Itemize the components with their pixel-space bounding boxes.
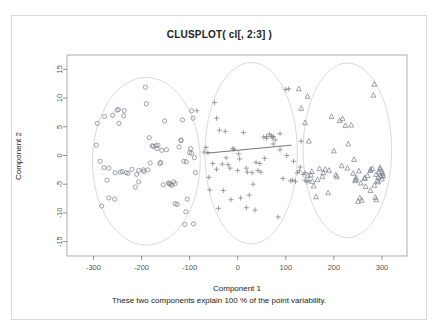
point-cluster-3 — [326, 190, 331, 195]
point-cluster-1 — [147, 136, 151, 140]
point-cluster-1 — [160, 148, 164, 152]
point-cluster-2 — [252, 207, 257, 212]
point-cluster-2 — [283, 87, 288, 92]
point-cluster-3 — [331, 148, 336, 153]
x-tick-label: 200 — [328, 263, 341, 272]
point-cluster-1 — [144, 102, 148, 106]
point-cluster-2 — [238, 195, 243, 200]
x-tick-label: 300 — [376, 263, 389, 272]
point-cluster-1 — [113, 171, 117, 175]
point-cluster-2 — [277, 147, 282, 152]
point-cluster-2 — [228, 197, 233, 202]
point-cluster-3 — [317, 166, 322, 171]
point-cluster-3 — [299, 106, 304, 111]
x-axis-title: Component 1 — [213, 284, 262, 293]
point-cluster-1 — [98, 159, 102, 163]
point-cluster-3 — [363, 184, 368, 189]
cluster-ellipses — [92, 62, 391, 245]
point-cluster-3 — [352, 157, 357, 162]
point-cluster-1 — [135, 172, 139, 176]
point-cluster-1 — [183, 222, 187, 226]
point-cluster-1 — [107, 166, 111, 170]
point-cluster-2 — [210, 161, 215, 166]
point-cluster-1 — [117, 121, 121, 125]
point-cluster-3 — [346, 141, 351, 146]
point-cluster-3 — [314, 194, 319, 199]
point-cluster-1 — [133, 185, 137, 189]
y-tick-label: 10 — [55, 94, 64, 102]
point-cluster-1 — [102, 114, 106, 118]
point-cluster-2 — [194, 108, 199, 113]
point-cluster-1 — [148, 161, 152, 165]
point-cluster-2 — [241, 130, 246, 135]
point-cluster-3 — [345, 165, 350, 170]
point-cluster-1 — [189, 109, 193, 113]
point-cluster-2 — [293, 179, 298, 184]
point-cluster-1 — [137, 168, 141, 172]
point-cluster-2 — [217, 128, 222, 133]
point-cluster-2 — [247, 193, 252, 198]
point-cluster-2 — [221, 188, 226, 193]
point-cluster-1 — [184, 210, 188, 214]
y-tick-label: -5 — [55, 181, 64, 188]
point-cluster-1 — [185, 197, 189, 201]
point-cluster-1 — [105, 178, 109, 182]
point-cluster-3 — [340, 116, 345, 121]
point-cluster-1 — [158, 161, 162, 165]
point-cluster-1 — [94, 143, 98, 147]
y-tick-label: 0 — [55, 153, 64, 157]
point-cluster-1 — [184, 160, 188, 164]
point-cluster-1 — [159, 160, 163, 164]
point-cluster-2 — [253, 160, 258, 165]
point-cluster-2 — [223, 129, 228, 134]
point-cluster-1 — [161, 183, 165, 187]
y-tick-label: 15 — [55, 65, 64, 73]
point-cluster-1 — [188, 147, 192, 151]
cluster-link-segment — [206, 145, 291, 153]
point-cluster-1 — [130, 167, 134, 171]
point-cluster-1 — [163, 119, 167, 123]
x-tick-label: 0 — [236, 263, 240, 272]
point-cluster-3 — [315, 177, 320, 182]
y-tick-label: -10 — [55, 208, 64, 219]
x-tick-label: -200 — [134, 263, 149, 272]
plot-frame — [67, 55, 407, 256]
point-cluster-2 — [277, 131, 282, 136]
point-cluster-1 — [137, 180, 141, 184]
data-points — [94, 82, 385, 227]
x-tick-label: -300 — [86, 263, 101, 272]
point-cluster-2 — [236, 151, 241, 156]
point-cluster-2 — [220, 162, 225, 167]
point-cluster-1 — [122, 109, 126, 113]
point-cluster-2 — [251, 182, 256, 187]
clusplot-page: CLUSPLOT( cl[, 2:3] ) -300-200-100010020… — [0, 0, 439, 334]
point-cluster-2 — [244, 166, 249, 171]
axes-group — [67, 55, 407, 256]
point-cluster-3 — [309, 169, 314, 174]
point-cluster-3 — [349, 122, 354, 127]
point-cluster-2 — [207, 187, 212, 192]
point-cluster-2 — [214, 116, 219, 121]
point-cluster-3 — [368, 188, 373, 193]
point-cluster-2 — [216, 206, 221, 211]
point-cluster-1 — [191, 222, 195, 226]
cluster-ellipse-cluster-3 — [303, 63, 391, 238]
point-cluster-2 — [201, 149, 206, 154]
variability-caption: These two components explain 100 % of th… — [112, 296, 326, 305]
point-cluster-2 — [212, 100, 217, 105]
point-cluster-3 — [343, 123, 348, 128]
y-axis-ticks: -15-10-5051015 — [55, 65, 67, 247]
point-cluster-2 — [250, 170, 255, 175]
point-cluster-2 — [284, 153, 289, 158]
point-cluster-3 — [358, 180, 363, 185]
y-tick-label: -15 — [55, 236, 64, 247]
point-cluster-1 — [113, 197, 117, 201]
point-cluster-3 — [296, 86, 301, 91]
point-cluster-1 — [143, 85, 147, 89]
point-cluster-3 — [371, 93, 376, 98]
point-cluster-3 — [329, 114, 334, 119]
x-tick-label: 100 — [280, 263, 293, 272]
point-cluster-2 — [224, 155, 229, 160]
point-cluster-1 — [122, 114, 126, 118]
point-cluster-2 — [298, 164, 303, 169]
